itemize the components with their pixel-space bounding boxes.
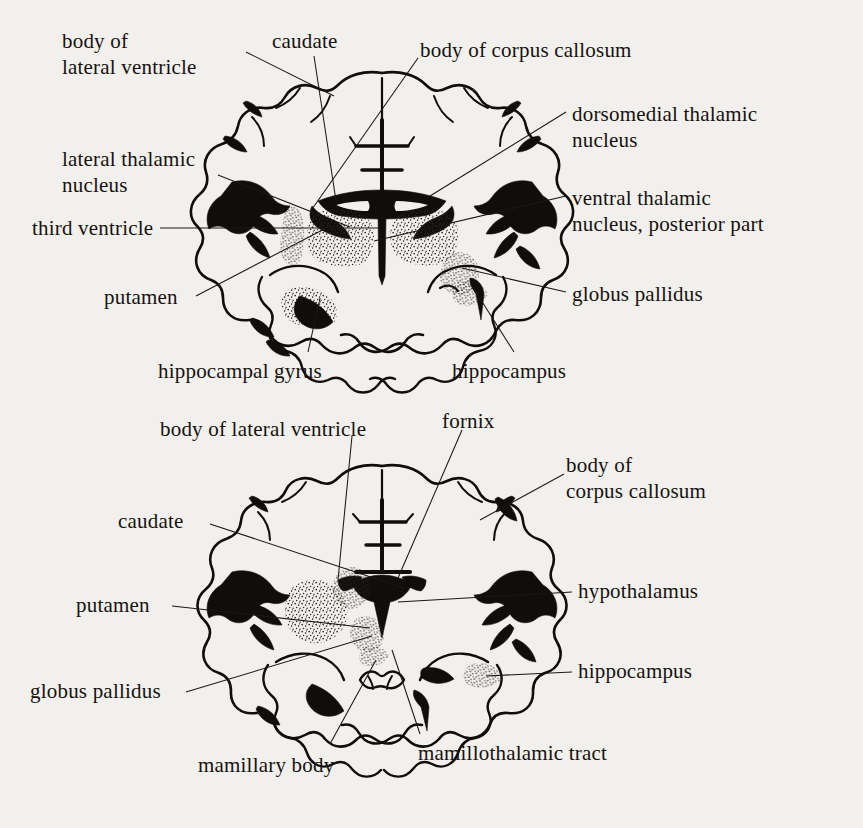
brain-coronal-sections-figure: body of lateral ventricle caudate body o…: [0, 0, 863, 828]
label-putamen: putamen: [104, 284, 178, 310]
label-caudate-lower: caudate: [118, 508, 184, 534]
label-globus-pallidus-lower: globus pallidus: [30, 678, 161, 704]
label-hypothalamus: hypothalamus: [578, 578, 698, 604]
label-mamillary-body: mamillary body: [198, 752, 334, 778]
label-third-ventricle: third ventricle: [32, 215, 153, 241]
label-body-of-corpus-callosum: body of corpus callosum: [420, 37, 632, 63]
lower-section-artwork: [172, 430, 572, 777]
label-globus-pallidus: globus pallidus: [572, 281, 703, 307]
label-body-of-lateral-ventricle: body of lateral ventricle: [62, 28, 197, 80]
label-lateral-thalamic-nucleus: lateral thalamic nucleus: [62, 146, 195, 198]
label-putamen-lower: putamen: [76, 592, 150, 618]
upper-section-artwork: [160, 52, 573, 393]
label-caudate: caudate: [272, 28, 338, 54]
label-body-of-lateral-ventricle-lower: body of lateral ventricle: [160, 416, 366, 442]
label-hippocampus: hippocampus: [452, 358, 566, 384]
label-ventral-thalamic-nucleus-posterior-part: ventral thalamic nucleus, posterior part: [572, 185, 764, 237]
label-fornix: fornix: [442, 408, 495, 434]
label-body-of-corpus-callosum-lower: body of corpus callosum: [566, 452, 706, 504]
label-dorsomedial-thalamic-nucleus: dorsomedial thalamic nucleus: [572, 101, 757, 153]
label-hippocampal-gyrus: hippocampal gyrus: [158, 358, 322, 384]
label-hippocampus-lower: hippocampus: [578, 658, 692, 684]
label-mamillothalamic-tract: mamillothalamic tract: [418, 740, 607, 766]
